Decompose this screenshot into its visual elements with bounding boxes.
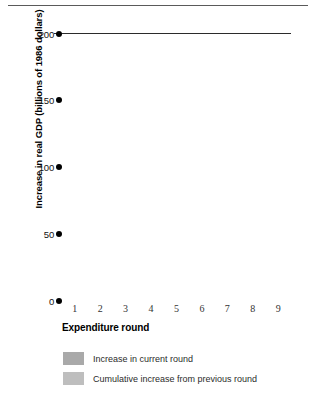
bar-slot bbox=[164, 33, 189, 301]
y-tick-label: 50 bbox=[44, 229, 54, 240]
x-tick-label-6: 6 bbox=[189, 303, 214, 319]
y-tick-label: 150 bbox=[39, 95, 54, 106]
bar-slot bbox=[215, 33, 240, 301]
x-tick-label-5: 5 bbox=[164, 303, 189, 319]
x-axis-ticks: 123456789 bbox=[62, 303, 291, 319]
bar-slot bbox=[189, 33, 214, 301]
bar-slot bbox=[87, 33, 112, 301]
y-tick-150: 150 bbox=[39, 94, 62, 106]
x-tick-label-4: 4 bbox=[138, 303, 163, 319]
legend-item-previous-round: Cumulative increase from previous round bbox=[63, 372, 308, 385]
x-tick-label-3: 3 bbox=[113, 303, 138, 319]
legend-item-current-round: Increase in current round bbox=[63, 352, 308, 365]
chart-figure: Increase in real GDP (billions of 1986 d… bbox=[0, 0, 316, 402]
bar-slot bbox=[113, 33, 138, 301]
x-tick-label-1: 1 bbox=[62, 303, 87, 319]
bar-slot bbox=[266, 33, 291, 301]
y-tick-label: 0 bbox=[49, 296, 54, 307]
y-tick-0: 0 bbox=[49, 295, 62, 307]
x-tick-label-7: 7 bbox=[215, 303, 240, 319]
y-tick-label: 100 bbox=[39, 162, 54, 173]
plot-area bbox=[62, 33, 291, 301]
legend-label: Cumulative increase from previous round bbox=[93, 374, 257, 384]
y-tick-label: 200 bbox=[39, 29, 54, 40]
y-tick-50: 50 bbox=[44, 228, 62, 240]
x-axis-title: Expenditure round bbox=[62, 322, 291, 333]
bar-slot bbox=[138, 33, 163, 301]
chart-legend: Increase in current round Cumulative inc… bbox=[63, 352, 308, 392]
legend-swatch-icon bbox=[63, 372, 84, 385]
y-tick-100: 100 bbox=[39, 161, 62, 173]
x-tick-label-2: 2 bbox=[87, 303, 112, 319]
legend-label: Increase in current round bbox=[93, 354, 193, 364]
bar-slot bbox=[240, 33, 265, 301]
x-tick-label-9: 9 bbox=[266, 303, 291, 319]
y-axis-ticks: 200 150 100 50 0 bbox=[0, 0, 62, 402]
bar-slot bbox=[62, 33, 87, 301]
legend-swatch-icon bbox=[63, 352, 84, 365]
x-tick-label-8: 8 bbox=[240, 303, 265, 319]
y-tick-200: 200 bbox=[39, 28, 62, 40]
bar-series-group bbox=[62, 33, 291, 301]
